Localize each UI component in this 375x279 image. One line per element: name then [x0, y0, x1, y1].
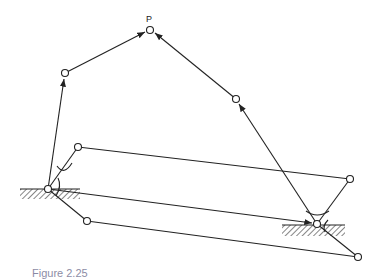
- link-upper-parallel: [78, 147, 350, 179]
- node-left-ground-pivot: [45, 186, 52, 193]
- node-p: [147, 27, 154, 34]
- figure-caption: Figure 2.25: [32, 267, 88, 279]
- node-right-low: [355, 254, 362, 261]
- link-left-pivot-to-left-mid: [48, 147, 78, 189]
- link-right-diagonal: [239, 104, 317, 224]
- link-upper-right-to-p: [155, 33, 236, 99]
- right-ground-support: [282, 225, 345, 236]
- link-left-vertical: [48, 79, 64, 189]
- node-left-low: [84, 218, 91, 225]
- node-right-mid: [347, 176, 354, 183]
- link-right-mid-to-right-pivot: [317, 179, 350, 224]
- point-p-label: P: [146, 14, 152, 24]
- node-right-ground-pivot: [314, 221, 321, 228]
- link-upper-left-to-p: [65, 32, 145, 73]
- node-upper-right: [233, 96, 240, 103]
- node-upper-left: [62, 70, 69, 77]
- node-left-mid: [75, 144, 82, 151]
